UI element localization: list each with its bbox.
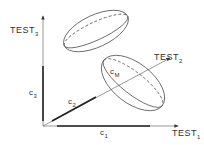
test1-label: TEST1: [172, 128, 201, 140]
test3-label: TEST3: [10, 25, 39, 37]
diagram-canvas: [0, 0, 204, 145]
c1-label: c1: [100, 128, 108, 139]
upper-ellipsoid: [58, 2, 135, 61]
test2-label: TEST2: [154, 52, 183, 64]
c3-label: c3: [29, 88, 37, 99]
c2-label: c2: [68, 97, 76, 108]
cm-label: cM: [110, 67, 120, 78]
